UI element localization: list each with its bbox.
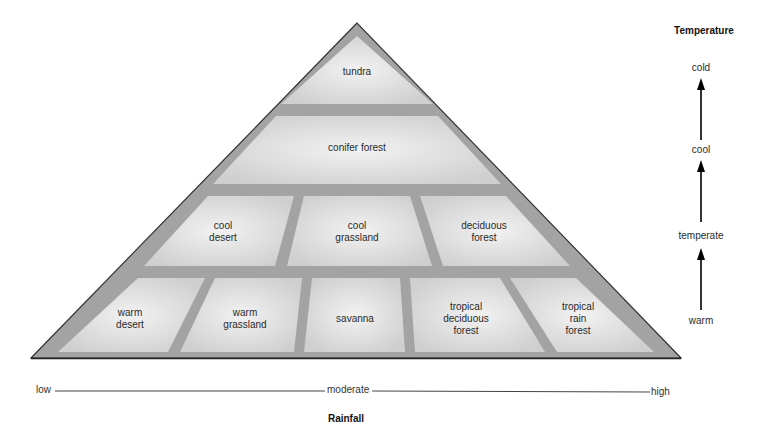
label-cool-grassland: cool grassland — [335, 220, 378, 244]
label-tundra: tundra — [343, 66, 371, 78]
rainfall-level-high: high — [651, 386, 670, 398]
rainfall-axis-title: Rainfall — [328, 413, 364, 425]
temperature-axis-title: Temperature — [674, 25, 734, 37]
label-warm-desert: warm desert — [116, 307, 144, 331]
label-conifer-forest: conifer forest — [328, 142, 386, 154]
biome-pyramid — [0, 0, 764, 434]
label-savanna: savanna — [336, 313, 374, 325]
label-deciduous-forest: deciduous forest — [461, 220, 507, 244]
label-cool-desert: cool desert — [209, 220, 237, 244]
temperature-arrows — [697, 78, 705, 310]
label-tropical-rain-forest: tropical rain forest — [562, 301, 594, 337]
rainfall-level-low: low — [36, 384, 51, 396]
temperature-level-cool: cool — [692, 144, 710, 156]
rainfall-level-moderate: moderate — [327, 384, 369, 396]
temperature-level-warm: warm — [689, 315, 713, 327]
temperature-level-temperate: temperate — [678, 230, 723, 242]
label-warm-grassland: warm grassland — [223, 307, 266, 331]
label-tropical-deciduous-forest: tropical deciduous forest — [443, 301, 489, 337]
temperature-level-cold: cold — [692, 62, 710, 74]
